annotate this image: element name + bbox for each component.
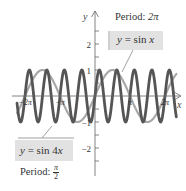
sin4x-pointer-line xyxy=(42,126,52,138)
sinx-label-var: x xyxy=(149,33,154,45)
y-tick-label: −2 xyxy=(81,144,91,154)
x-axis-label: x xyxy=(176,99,182,110)
y-tick-label: 2 xyxy=(87,40,92,50)
sinx-pointer-line xyxy=(122,50,133,72)
period-sin4x-text: Period: xyxy=(20,166,53,177)
period-sinx-annotation: Period: 2π xyxy=(115,11,158,22)
chart-canvas: −2π−ππ2π 21−1−2 x y xyxy=(0,0,186,191)
period-sinx-text: Period: xyxy=(115,11,148,22)
sinx-label-eq: = sin xyxy=(122,33,149,45)
y-tick-label: −1 xyxy=(81,118,91,128)
y-axis-label: y xyxy=(82,11,88,22)
x-tick-label: −2π xyxy=(18,98,32,107)
x-tick-label: −π xyxy=(55,98,65,107)
period-sin4x-annotation: Period: π2 xyxy=(20,164,59,181)
y-tick-label: 1 xyxy=(87,66,92,76)
sin4x-label-eq: = sin 4 xyxy=(25,144,58,156)
sinx-label-box: y = sin x xyxy=(110,31,163,50)
sin4x-label-box: y = sin 4x xyxy=(15,140,73,161)
period-sin4x-den: 2 xyxy=(53,173,59,181)
period-sinx-value: 2π xyxy=(148,11,159,22)
period-sin4x-fraction: π2 xyxy=(53,164,59,181)
x-tick-label: 2π xyxy=(161,98,170,107)
sin4x-label-var: x xyxy=(58,144,63,156)
